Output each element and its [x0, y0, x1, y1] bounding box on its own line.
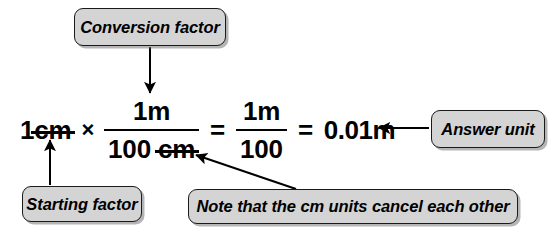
conversion-factor-numerator: 1m — [129, 98, 174, 124]
fraction-bar — [104, 129, 199, 132]
multiplication-sign: × — [71, 117, 104, 143]
fraction-bar — [236, 129, 287, 132]
starting-unit-cancelled: cm — [34, 117, 71, 143]
callout-note-label: Note that the cm units cancel each other — [196, 197, 509, 216]
simplified-denominator: 100 — [236, 136, 287, 162]
simplified-fraction: 1m 100 — [236, 98, 287, 163]
equals-sign-1: = — [199, 115, 236, 146]
result-value: 0.01m — [324, 117, 395, 143]
starting-factor-term: 1cm — [20, 117, 71, 143]
callout-answer-unit-label: Answer unit — [441, 120, 534, 139]
callout-conversion-factor: Conversion factor — [74, 8, 226, 46]
equals-sign-2: = — [287, 115, 324, 146]
callout-conversion-factor-label: Conversion factor — [80, 18, 220, 37]
callout-note: Note that the cm units cancel each other — [188, 189, 518, 224]
equation: 1cm × 1m 100 cm = 1m 100 = 0.01m — [20, 99, 395, 161]
callout-answer-unit: Answer unit — [431, 110, 545, 148]
figure-canvas: Conversion factor Answer unit Starting f… — [0, 0, 560, 238]
conversion-factor-denominator: 100 cm — [104, 136, 199, 162]
denominator-number: 100 — [108, 134, 151, 164]
callout-starting-factor: Starting factor — [22, 186, 142, 222]
starting-value: 1 — [20, 117, 34, 143]
simplified-numerator: 1m — [239, 98, 284, 124]
callout-starting-factor-label: Starting factor — [26, 195, 137, 214]
denominator-unit-cancelled: cm — [158, 136, 195, 162]
conversion-factor-fraction: 1m 100 cm — [104, 98, 199, 163]
